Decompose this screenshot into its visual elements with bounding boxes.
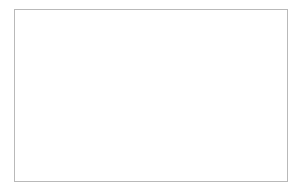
cross-section-figure — [0, 0, 300, 192]
figure-background — [0, 0, 300, 192]
cross-section-canvas — [0, 0, 300, 192]
